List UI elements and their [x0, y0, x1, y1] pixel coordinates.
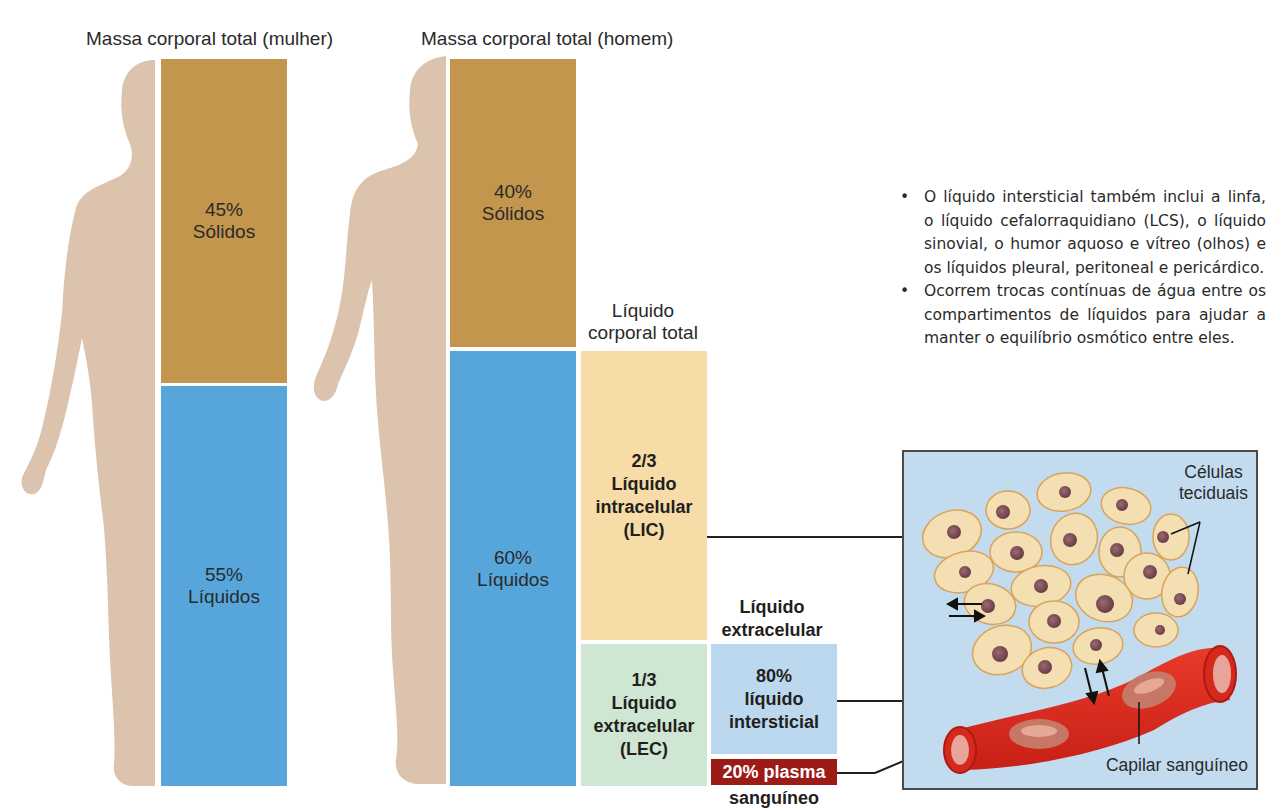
- plasma-label-line2: sanguíneo: [711, 787, 837, 810]
- extracellular-line1: Líquido: [612, 692, 677, 715]
- extracellular-line2: extracelular: [593, 715, 694, 738]
- male-solids-percent: 40%: [494, 181, 532, 203]
- extracellular-abbr: (LEC): [620, 738, 668, 761]
- tissue-cells-label-line1: Células: [1179, 462, 1248, 483]
- female-silhouette: [0, 58, 160, 788]
- intracellular-line1: Líquido: [612, 473, 677, 496]
- notes-list: O líquido intersticial também inclui a l…: [898, 186, 1266, 351]
- note-item: O líquido intersticial também inclui a l…: [898, 186, 1266, 280]
- female-solids-block: 45% Sólidos: [161, 59, 287, 383]
- male-liquids-label: Líquidos: [477, 569, 549, 591]
- capillary-label: Capilar sanguíneo: [1106, 754, 1248, 776]
- female-title: Massa corporal total (mulher): [86, 28, 333, 50]
- note-item: Ocorrem trocas contínuas de água entre o…: [898, 280, 1266, 351]
- intracellular-fluid-block: 2/3 Líquido intracelular (LIC): [581, 351, 707, 640]
- male-liquids-block: 60% Líquidos: [450, 351, 576, 786]
- female-liquids-label: Líquidos: [188, 586, 260, 608]
- female-solids-label: Sólidos: [193, 221, 255, 243]
- female-liquids-percent: 55%: [205, 564, 243, 586]
- tissue-illustration: Células teciduais Capilar sanguíneo: [902, 450, 1258, 790]
- extracellular-fraction: 1/3: [631, 669, 656, 692]
- female-liquids-block: 55% Líquidos: [161, 386, 287, 786]
- total-body-fluid-title-line2: corporal total: [580, 322, 706, 344]
- total-body-fluid-title: Líquido corporal total: [580, 300, 706, 344]
- intracellular-abbr: (LIC): [624, 519, 665, 542]
- male-solids-label: Sólidos: [482, 203, 544, 225]
- tissue-cells-label: Células teciduais: [1179, 462, 1248, 504]
- male-liquids-percent: 60%: [494, 547, 532, 569]
- total-body-fluid-title-line1: Líquido: [580, 300, 706, 322]
- female-solids-percent: 45%: [205, 199, 243, 221]
- male-silhouette: [300, 54, 448, 786]
- extracellular-fluid-block: 1/3 Líquido extracelular (LEC): [581, 644, 707, 786]
- tissue-cells-label-line2: teciduais: [1179, 483, 1248, 504]
- intracellular-line2: intracelular: [595, 496, 692, 519]
- male-title: Massa corporal total (homem): [421, 28, 673, 50]
- tissue-cells: [916, 469, 1202, 694]
- intracellular-fraction: 2/3: [631, 450, 656, 473]
- male-solids-block: 40% Sólidos: [450, 59, 576, 347]
